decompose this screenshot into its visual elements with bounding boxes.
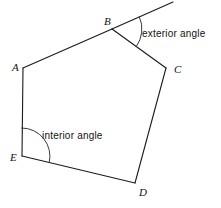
geometry-figure: A B C D E exterior angle interior angle (0, 0, 221, 208)
vertex-label-C: C (174, 63, 182, 75)
edge-C-D (135, 68, 166, 183)
exterior-angle-label: exterior angle (142, 28, 206, 39)
vertex-label-A: A (11, 61, 19, 73)
vertex-label-B: B (104, 15, 111, 27)
figure-canvas: A B C D E exterior angle interior angle (0, 0, 221, 208)
exterior-angle-ray (112, 2, 173, 29)
edge-E-A (22, 68, 23, 156)
vertex-label-E: E (9, 151, 17, 163)
edge-D-E (22, 156, 135, 183)
edge-A-B (23, 29, 112, 68)
vertex-label-D: D (138, 186, 147, 198)
interior-angle-label: interior angle (42, 130, 103, 141)
